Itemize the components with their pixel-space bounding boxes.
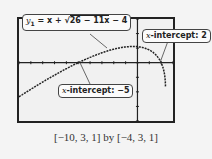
eq-tail: − 4: [109, 16, 127, 25]
eq-radicand: 26 − 11x: [70, 15, 110, 25]
int2-text: -intercept: 2: [151, 31, 207, 40]
int5-text: -intercept: −5: [67, 86, 130, 95]
eq-mid: = x + √: [35, 16, 70, 25]
window-caption: [−10, 3, 1] by [−4, 3, 1]: [0, 131, 212, 143]
equation-callout: y1 = x + √26 − 11x − 4: [22, 14, 131, 31]
x-intercept-neg5-callout: x-intercept: −5: [58, 84, 133, 98]
x-intercept-2-callout: x-intercept: 2: [142, 29, 211, 43]
